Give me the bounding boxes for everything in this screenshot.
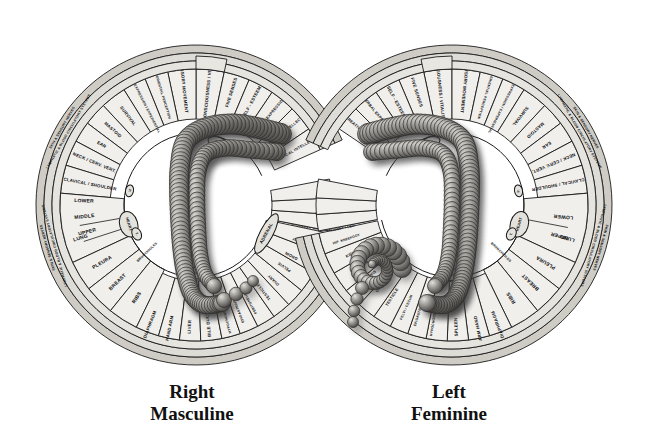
caption-right-line2: Feminine [411,403,487,424]
appendix-segment [348,305,360,317]
caption-right-line1: Left [432,381,466,402]
appendix-segment [348,317,359,328]
caption-left-line1: Right [169,381,215,402]
caption-left-line2: Masculine [150,403,233,424]
chart-canvas: CONSCIOUSNESS / VITALITYSENSORY MOVEMENT… [0,0,649,447]
cecum-coil-segment [368,260,376,268]
appendix-segment [351,293,363,305]
colon-left-feminine-segment [419,295,436,312]
sigmoid-tail-segment [248,276,259,287]
colon-right-inner-limb-segment [207,279,222,294]
colon-left-inner-limb-segment [428,279,443,294]
sector-label-lung-part: LOWER [74,197,94,204]
sector-label-lower: LIVER [186,319,192,334]
sector-label-lower: SPLEEN [453,317,459,336]
reflexology-diagram: CONSCIOUSNESS / VITALITYSENSORY MOVEMENT… [0,0,649,447]
